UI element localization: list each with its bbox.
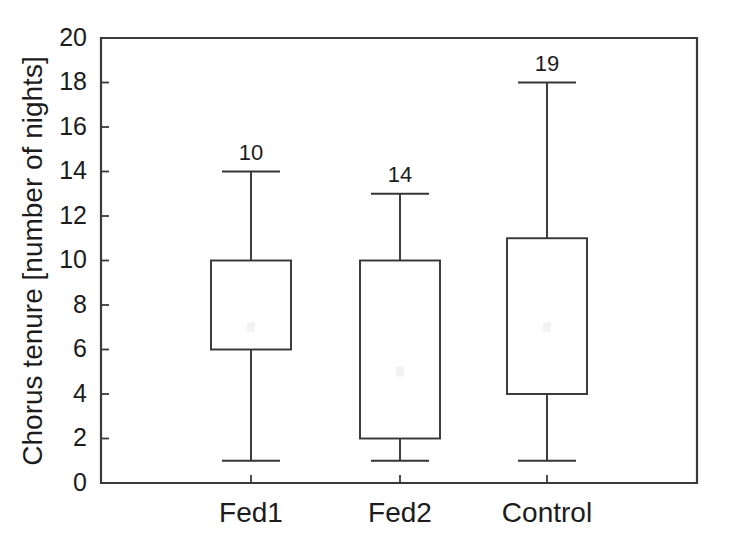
- y-axis-tick-labels: 02468101214161820: [59, 23, 87, 496]
- box-plot-item[interactable]: [211, 172, 291, 461]
- y-tick-label: 4: [73, 379, 87, 407]
- median-marker: [396, 367, 404, 377]
- box-iqr-rect[interactable]: [360, 261, 440, 439]
- y-tick-label: 16: [59, 112, 87, 140]
- y-tick-label: 20: [59, 23, 87, 51]
- box-plot-item[interactable]: [507, 83, 587, 461]
- y-tick-label: 12: [59, 201, 87, 229]
- median-marker: [247, 322, 255, 332]
- median-marker: [543, 322, 551, 332]
- sample-size-label: 19: [535, 51, 559, 76]
- y-tick-label: 0: [73, 468, 87, 496]
- box-plot-series: [211, 83, 587, 461]
- sample-size-label: 10: [239, 140, 263, 165]
- x-category-label: Fed2: [368, 497, 432, 528]
- y-tick-label: 14: [59, 156, 87, 184]
- x-category-label: Fed1: [219, 497, 283, 528]
- y-axis-tick-marks: [101, 83, 109, 439]
- box-plot-figure: Chorus tenure [number of nights] 0246810…: [0, 0, 731, 557]
- box-plot-item[interactable]: [360, 194, 440, 461]
- sample-size-annotations: 101419: [239, 51, 559, 187]
- box-iqr-rect[interactable]: [507, 238, 587, 394]
- y-tick-label: 2: [73, 423, 87, 451]
- sample-size-label: 14: [388, 162, 412, 187]
- y-tick-label: 6: [73, 334, 87, 362]
- y-tick-label: 8: [73, 290, 87, 318]
- chart-canvas: Chorus tenure [number of nights] 0246810…: [0, 0, 731, 557]
- x-category-label: Control: [502, 497, 592, 528]
- y-axis-title: Chorus tenure [number of nights]: [17, 56, 48, 465]
- x-axis-tick-marks: [251, 475, 547, 483]
- y-tick-label: 10: [59, 245, 87, 273]
- box-iqr-rect[interactable]: [211, 261, 291, 350]
- y-axis-title-text: Chorus tenure [number of nights]: [17, 56, 48, 465]
- x-axis-category-labels: Fed1Fed2Control: [219, 497, 592, 528]
- y-tick-label: 18: [59, 67, 87, 95]
